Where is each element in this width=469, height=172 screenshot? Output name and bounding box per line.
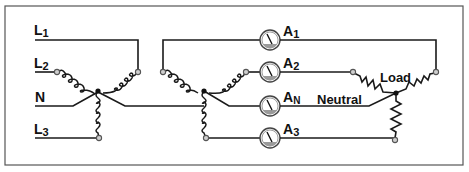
coil-mid-2 (209, 73, 245, 93)
coil-l2 (58, 70, 95, 94)
wire-mid-1 (163, 40, 260, 71)
coil-mid-3 (202, 92, 206, 138)
node-mid-1 (160, 69, 165, 74)
label-a1: A1 (283, 23, 299, 40)
coil-l1 (103, 72, 137, 93)
label-neutral: Neutral (317, 92, 362, 107)
label-l3: L3 (34, 121, 49, 138)
circuit-diagram: L1 L2 N L3 A1 A2 AN A3 Load Neutral (0, 0, 469, 172)
middle-star-point (201, 88, 206, 93)
source-star-point (95, 88, 100, 93)
node-mid-2 (243, 69, 248, 74)
label-n: N (35, 89, 45, 105)
label-an: AN (283, 89, 300, 106)
node-l2 (54, 69, 59, 74)
resistor-load-3 (391, 93, 401, 138)
node-l3 (96, 135, 101, 140)
middle-wye (160, 40, 260, 141)
source-wye (35, 40, 204, 141)
wire-n (35, 92, 204, 106)
label-a2: A2 (283, 55, 299, 72)
label-a3: A3 (283, 121, 299, 138)
ammeter-an (260, 96, 280, 116)
label-l1: L1 (34, 22, 49, 39)
ammeter-a1 (260, 30, 280, 50)
coil-mid-1 (164, 70, 198, 93)
ammeter-a2 (260, 62, 280, 82)
node-mid-3 (203, 135, 208, 140)
coil-l3 (96, 92, 100, 138)
label-load: Load (380, 70, 411, 85)
ammeter-a3 (260, 128, 280, 148)
node-l1 (135, 69, 140, 74)
node-load-1 (350, 69, 355, 74)
load-star-point (393, 90, 398, 95)
wire-l1 (35, 40, 138, 71)
label-l2: L2 (34, 55, 49, 72)
wire-a1-load (280, 40, 436, 71)
node-load-3 (392, 137, 397, 142)
node-load-2 (433, 69, 438, 74)
